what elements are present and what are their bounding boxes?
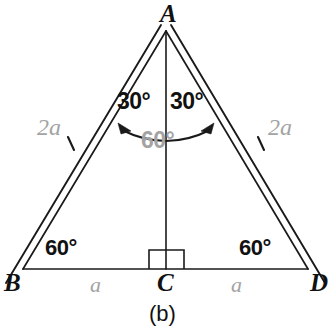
side-label-base-left-a: a (90, 274, 101, 296)
vertex-label-d: D (310, 270, 328, 295)
side-label-base-right-a: a (231, 274, 242, 296)
angle-label-apex-total: 60° (141, 129, 174, 152)
side-label-right-2a: 2a (268, 115, 292, 139)
vertex-label-b: B (4, 270, 21, 295)
vertex-label-a: A (160, 1, 177, 26)
triangle-side-ad (166, 31, 308, 269)
vertex-label-c: C (157, 270, 174, 295)
measure-line-left-2a (6, 25, 161, 283)
figure-caption: (b) (149, 303, 176, 325)
angle-label-base-left: 60° (45, 237, 77, 259)
tick-mark-right (258, 137, 264, 150)
angle-label-apex-right: 30° (170, 90, 203, 113)
angle-label-base-right: 60° (239, 237, 271, 259)
angle-label-apex-left: 30° (117, 90, 150, 113)
tick-mark-left (68, 137, 74, 150)
side-label-left-2a: 2a (37, 115, 61, 139)
geometry-figure: A B C D 30° 30° 60° 60° 60° 2a 2a a a (b… (0, 0, 331, 331)
